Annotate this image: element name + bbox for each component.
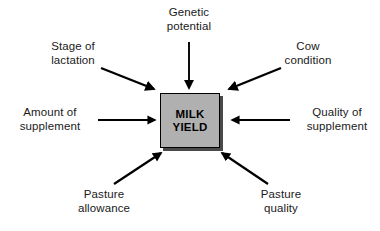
- arrow-stage-of-lactation: [101, 68, 154, 89]
- label-line-2: lactation: [37, 54, 109, 68]
- label-line-1: Quality of: [295, 106, 379, 120]
- label-line-1: Amount of: [8, 106, 92, 120]
- label-line-2: allowance: [62, 202, 146, 216]
- arrow-cow-condition: [229, 68, 281, 89]
- label-pasture-allowance: Pasture allowance: [62, 188, 146, 215]
- label-line-2: condition: [272, 54, 344, 68]
- center-node-line-2: YIELD: [173, 121, 208, 134]
- label-stage-of-lactation: Stage of lactation: [37, 40, 109, 67]
- label-line-1: Stage of: [37, 40, 109, 54]
- label-line-1: Genetic: [153, 6, 225, 20]
- label-line-2: quality: [243, 202, 319, 216]
- label-quality-of-supplement: Quality of supplement: [295, 106, 379, 133]
- label-line-2: supplement: [295, 120, 379, 134]
- label-line-2: supplement: [8, 120, 92, 134]
- label-line-2: potential: [153, 20, 225, 34]
- label-genetic-potential: Genetic potential: [153, 6, 225, 33]
- center-node-milk-yield: MILK YIELD: [160, 93, 220, 148]
- diagram-canvas: Stage of lactation Genetic potential Cow…: [0, 0, 380, 231]
- arrow-pasture-allowance: [114, 153, 161, 184]
- center-node-line-1: MILK: [176, 108, 205, 121]
- label-pasture-quality: Pasture quality: [243, 188, 319, 215]
- label-amount-of-supplement: Amount of supplement: [8, 106, 92, 133]
- arrow-pasture-quality: [222, 153, 268, 184]
- label-line-1: Cow: [272, 40, 344, 54]
- label-line-1: Pasture: [243, 188, 319, 202]
- label-cow-condition: Cow condition: [272, 40, 344, 67]
- label-line-1: Pasture: [62, 188, 146, 202]
